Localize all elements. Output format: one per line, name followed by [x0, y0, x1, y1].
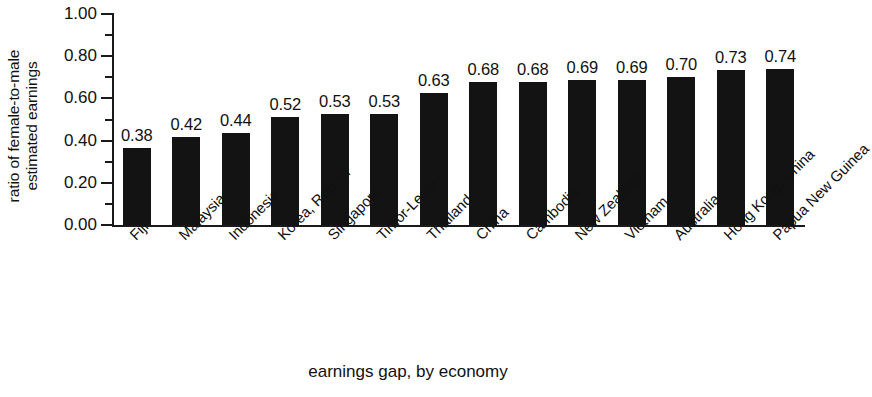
- y-axis-major-tick: [101, 13, 112, 15]
- y-axis-major-tick: [101, 182, 112, 184]
- y-axis-tick-label: 0.20: [64, 173, 97, 193]
- y-axis-major-tick: [101, 224, 112, 226]
- y-axis-major-tick: [101, 140, 112, 142]
- y-axis-title-line-2: estimated earnings: [23, 61, 41, 190]
- bar-value-label: 0.53: [369, 92, 400, 111]
- y-axis-major-tick: [101, 55, 112, 57]
- y-axis-title: ratio of female-to-male estimated earnin…: [1, 11, 45, 241]
- y-axis-title-line-1: ratio of female-to-male: [5, 50, 23, 203]
- bar-value-label: 0.63: [418, 71, 449, 90]
- bar-value-label: 0.42: [171, 115, 202, 134]
- bar-value-label: 0.69: [616, 58, 647, 77]
- bar-value-label: 0.68: [517, 60, 548, 79]
- bar-slot: 0.38: [112, 148, 162, 225]
- bar[interactable]: [519, 82, 547, 225]
- bar-value-label: 0.38: [121, 126, 152, 145]
- bar-value-label: 0.74: [765, 47, 796, 66]
- y-axis-tick-label: 0.40: [64, 131, 97, 151]
- bar-value-label: 0.70: [666, 55, 697, 74]
- y-axis-minor-tick: [105, 119, 112, 121]
- y-axis-tick-label: 0.80: [64, 46, 97, 66]
- bar-value-label: 0.68: [468, 60, 499, 79]
- bar-value-label: 0.69: [567, 58, 598, 77]
- y-axis-tick-label: 1.00: [64, 4, 97, 24]
- bar-value-label: 0.44: [220, 111, 251, 130]
- y-axis-minor-tick: [105, 203, 112, 205]
- x-axis-title: earnings gap, by economy: [0, 362, 816, 382]
- bar-value-label: 0.53: [319, 92, 350, 111]
- bar-value-label: 0.73: [715, 48, 746, 67]
- y-axis-minor-tick: [105, 161, 112, 163]
- y-axis-minor-tick: [105, 76, 112, 78]
- bar[interactable]: [123, 148, 151, 225]
- y-axis-major-tick: [101, 97, 112, 99]
- y-axis-minor-tick: [105, 34, 112, 36]
- bar[interactable]: [420, 93, 448, 225]
- x-axis-line: [112, 225, 805, 227]
- bar-value-label: 0.52: [270, 95, 301, 114]
- y-axis-tick-label: 0.60: [64, 88, 97, 108]
- bar[interactable]: [667, 77, 695, 225]
- y-axis-tick-label: 0.00: [64, 215, 97, 235]
